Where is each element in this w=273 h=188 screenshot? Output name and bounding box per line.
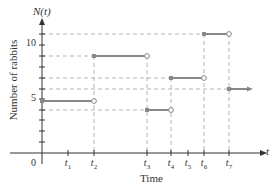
- x-tick-label-t2: t2: [91, 157, 97, 171]
- open-points: [92, 32, 232, 113]
- x-tick-label-t7: t7: [226, 157, 232, 171]
- segment-arrow-icon: [247, 87, 253, 92]
- x-axis-symbol: t: [266, 145, 269, 157]
- x-tick-label-t6: t6: [201, 157, 207, 171]
- y-axis-title-wrap: Number of rabbits: [3, 0, 23, 188]
- x-tick-label-t3: t3: [144, 157, 150, 171]
- y-tick-label-5: 5: [31, 92, 36, 103]
- y-axis-symbol: N(t): [33, 5, 51, 17]
- axes: [10, 24, 262, 164]
- y-axis-arrow-icon: [39, 18, 45, 25]
- x-axis-title: Time: [140, 172, 163, 184]
- vertical-guides: [94, 34, 229, 153]
- x-tick-label-t4: t4: [168, 157, 174, 171]
- y-axis-title: Number of rabbits: [7, 40, 19, 121]
- horizontal-guides: [42, 34, 229, 110]
- y-tick-label-10: 10: [26, 37, 36, 48]
- x-tick-label-t1: t1: [65, 157, 71, 171]
- step-segments: [42, 34, 248, 110]
- x-tick-label-t5: t5: [185, 157, 191, 171]
- origin-label: 0: [31, 157, 36, 168]
